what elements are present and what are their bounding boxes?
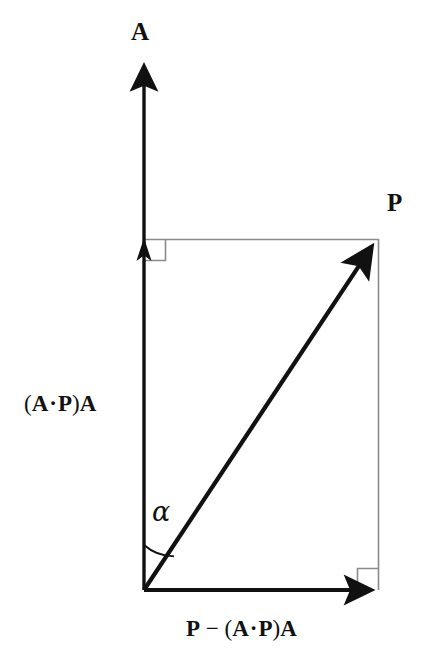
vector-p-2: P	[259, 616, 273, 641]
right-angle-marker-bottom-right	[358, 569, 380, 591]
label-projection-component: (A·P)A	[24, 392, 96, 415]
vector-p-lead: P	[186, 616, 200, 641]
label-angle-alpha: α	[152, 498, 170, 525]
minus-operator: −	[206, 616, 219, 641]
paren-close: )	[72, 391, 80, 416]
vector-a-2: A	[80, 391, 97, 416]
vector-p-1: P	[58, 391, 72, 416]
vector-a-3: A	[232, 616, 249, 641]
dot-operator-2: ·	[249, 616, 259, 641]
label-p-vector: P	[387, 190, 403, 215]
vector-a-4: A	[280, 616, 297, 641]
dot-operator-1: ·	[48, 391, 58, 416]
label-rejection-component: P − (A·P)A	[186, 617, 297, 640]
paren-open: (	[24, 391, 32, 416]
vector-a-1: A	[32, 391, 49, 416]
diagram-canvas: A P (A·P)A P − (A·P)A α	[0, 0, 426, 664]
vector-projection-svg	[0, 0, 426, 664]
p-vector-arrow	[144, 247, 372, 590]
label-a-vector: A	[131, 19, 150, 44]
